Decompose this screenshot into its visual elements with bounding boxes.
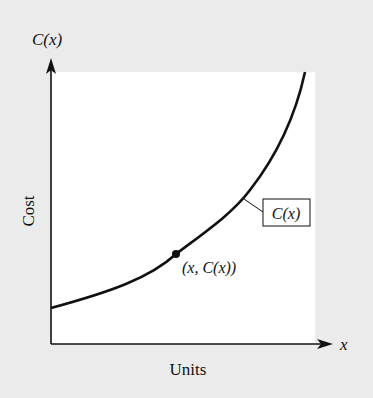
y-title: Cost <box>19 195 38 226</box>
x-axis-label: x <box>339 335 348 354</box>
curve-label: C(x) <box>272 205 300 223</box>
x-title: Units <box>170 360 207 379</box>
point-label: (x, C(x)) <box>182 259 236 277</box>
cost-function-diagram: C(x) x Units Cost C(x) (x, C(x)) <box>0 0 373 398</box>
y-axis-label: C(x) <box>32 30 63 49</box>
curve-point <box>172 250 180 258</box>
